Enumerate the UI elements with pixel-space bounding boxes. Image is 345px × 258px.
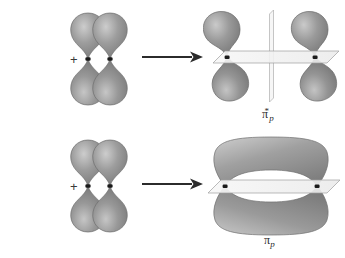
plus-operator: + <box>70 180 78 193</box>
nucleus-right <box>313 56 318 59</box>
horizontal-nodal-plane <box>208 180 340 193</box>
pi-bonding-orbital <box>200 134 345 240</box>
antibonding-row: + <box>0 0 345 129</box>
bonding-lobe-top <box>214 137 328 186</box>
p-subscript: p <box>269 113 274 123</box>
p-orbital-right <box>82 138 138 234</box>
pi-star-antibonding-orbital <box>203 6 343 112</box>
pi-bonding-label: πp <box>264 234 275 249</box>
bonding-lobe-bottom <box>214 186 328 235</box>
nucleus <box>107 57 112 61</box>
reaction-arrow <box>142 177 204 195</box>
p-orbital-right <box>82 11 138 107</box>
bonding-row: + <box>0 129 345 258</box>
nucleus <box>107 184 112 188</box>
reaction-arrow <box>142 50 204 68</box>
p-subscript: p <box>270 239 275 249</box>
pi-molecular-orbital-diagram: + <box>0 0 345 258</box>
pi-star-label: π*p <box>262 107 274 123</box>
nucleus-left <box>225 56 230 59</box>
plus-operator: + <box>70 53 78 66</box>
nucleus-right <box>315 185 320 188</box>
nucleus-left <box>223 185 228 188</box>
horizontal-nodal-plane <box>213 51 339 63</box>
